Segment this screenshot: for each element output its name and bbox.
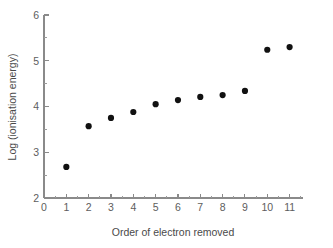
data-point-8 [220, 92, 226, 98]
data-point-7 [197, 94, 203, 100]
ionisation-energy-scatter-chart: 01234567891011 23456 Order of electron r… [0, 0, 333, 248]
data-point-5 [153, 101, 159, 107]
y-tick-label-3: 3 [33, 146, 39, 158]
axes [44, 15, 303, 198]
y-axis-major-ticks [44, 15, 49, 198]
y-axis-title: Log (ionisation energy) [6, 54, 18, 161]
data-point-3 [108, 115, 114, 121]
data-point-10 [264, 47, 270, 53]
x-tick-label-4: 4 [130, 201, 136, 213]
y-tick-label-2: 2 [33, 192, 39, 204]
y-tick-label-5: 5 [33, 55, 39, 67]
x-axis-title: Order of electron removed [112, 226, 235, 238]
y-tick-label-4: 4 [33, 100, 39, 112]
y-tick-label-6: 6 [33, 9, 39, 21]
x-tick-label-8: 8 [220, 201, 226, 213]
x-tick-label-9: 9 [242, 201, 248, 213]
data-point-2 [86, 123, 92, 129]
x-tick-label-5: 5 [153, 201, 159, 213]
data-point-4 [130, 109, 136, 115]
x-tick-label-2: 2 [86, 201, 92, 213]
plot-area: 01234567891011 23456 Order of electron r… [0, 0, 333, 248]
y-axis-tick-labels: 23456 [33, 9, 39, 204]
x-tick-label-11: 11 [284, 201, 295, 213]
x-tick-label-7: 7 [197, 201, 203, 213]
data-point-9 [242, 88, 248, 94]
x-axis-tick-labels: 01234567891011 [41, 201, 295, 213]
x-tick-label-1: 1 [63, 201, 69, 213]
data-point-11 [287, 44, 293, 50]
x-tick-label-6: 6 [175, 201, 181, 213]
x-tick-label-10: 10 [261, 201, 273, 213]
data-point-series [63, 44, 292, 170]
data-point-1 [63, 164, 69, 170]
x-tick-label-3: 3 [108, 201, 114, 213]
data-point-6 [175, 97, 181, 103]
x-tick-label-0: 0 [41, 201, 47, 213]
